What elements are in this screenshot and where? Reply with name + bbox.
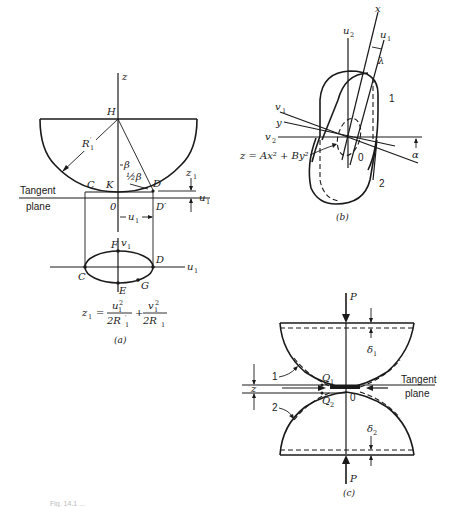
panel-b: u 2 x u 1 λ v 2 v 1 y α bbox=[239, 3, 422, 222]
svg-text:2: 2 bbox=[119, 299, 123, 307]
radius-label: R ′ 1 bbox=[80, 136, 96, 152]
svg-text:1: 1 bbox=[90, 144, 94, 152]
svg-text:2: 2 bbox=[155, 299, 159, 307]
figure-caption: Fig. 14.1 ... bbox=[50, 500, 85, 507]
point-O: 0 bbox=[110, 201, 117, 212]
svg-text:1: 1 bbox=[330, 378, 334, 386]
svg-text:u: u bbox=[187, 261, 193, 272]
body-2-label-c: 2 bbox=[272, 402, 278, 413]
svg-text:2: 2 bbox=[373, 429, 377, 437]
panel-c: P δ 1 Tangent plane 0 z Q bbox=[242, 291, 437, 498]
point-C: C bbox=[87, 179, 95, 190]
svg-text:=: = bbox=[96, 307, 104, 318]
gap-z-label: z bbox=[250, 383, 257, 394]
svg-text:v: v bbox=[265, 131, 271, 142]
svg-text:u: u bbox=[199, 192, 205, 203]
delta2-label: δ 2 bbox=[367, 423, 377, 437]
svg-text:1: 1 bbox=[127, 243, 131, 251]
tangent-plane-label-1: Tangent bbox=[20, 185, 56, 196]
v2-axis-label: v 2 bbox=[265, 131, 276, 145]
u1-axis-label-plan: u 1 bbox=[187, 261, 198, 275]
svg-text:2R: 2R bbox=[106, 315, 121, 326]
point-F: F bbox=[110, 239, 119, 250]
panel-c-caption: (c) bbox=[343, 488, 356, 498]
u1-axis-label-b: u 1 bbox=[380, 29, 391, 43]
point-D-prime: D′ bbox=[155, 201, 167, 212]
svg-text:v: v bbox=[275, 101, 281, 112]
svg-text:2R: 2R bbox=[142, 315, 157, 326]
force-bottom-label: P bbox=[349, 473, 357, 484]
z-axis-label: z bbox=[121, 71, 128, 82]
point-C-plan: C bbox=[78, 271, 86, 282]
point-E: E bbox=[118, 285, 127, 296]
tangent-plane-c-label-1: Tangent bbox=[401, 374, 437, 385]
lower-body-arc bbox=[280, 392, 414, 455]
body-2-outline bbox=[309, 138, 376, 204]
angle-beta: β bbox=[123, 159, 130, 170]
curvature-equation: z 1 = u 1 2 2R ′ 1 + v 1 2 2R 1 bbox=[81, 299, 167, 329]
angle-half-beta: ½β bbox=[126, 171, 142, 182]
point-G: G bbox=[141, 280, 149, 291]
panel-b-caption: (b) bbox=[336, 212, 349, 222]
point-D-plan: D bbox=[155, 254, 164, 265]
body-1-label-c: 1 bbox=[272, 371, 278, 382]
svg-text:2: 2 bbox=[350, 31, 354, 39]
svg-text:1: 1 bbox=[125, 321, 129, 329]
panel-a-caption: (a) bbox=[114, 335, 127, 345]
v1-axis-label-b: v 1 bbox=[275, 101, 286, 115]
tangent-plane-c-label-2: plane bbox=[405, 388, 430, 399]
contact-stress-figure: z H R ′ 1 β ½β C K D Tangent plane 0 D′ bbox=[0, 0, 450, 507]
x-axis-label: x bbox=[375, 3, 381, 14]
u2-axis-label: u 2 bbox=[343, 25, 354, 39]
origin-b: 0 bbox=[358, 152, 364, 163]
upper-body-arc bbox=[280, 323, 414, 388]
body-2-label: 2 bbox=[379, 178, 385, 189]
point-H: H bbox=[106, 106, 116, 117]
force-top-label: P bbox=[349, 291, 357, 302]
point-K: K bbox=[105, 179, 114, 190]
angle-alpha: α bbox=[412, 149, 419, 160]
contact-patch bbox=[330, 385, 360, 389]
svg-text:u: u bbox=[343, 25, 349, 36]
svg-text:z: z bbox=[81, 307, 88, 318]
panel-a: z H R ′ 1 β ½β C K D Tangent plane 0 D′ bbox=[19, 71, 210, 345]
svg-text:1: 1 bbox=[282, 107, 286, 115]
svg-text:1: 1 bbox=[193, 173, 197, 181]
svg-text:2: 2 bbox=[330, 401, 334, 409]
svg-text:1: 1 bbox=[387, 35, 391, 43]
angle-lambda: λ bbox=[377, 55, 384, 66]
svg-text:u: u bbox=[380, 29, 386, 40]
point-D: D bbox=[152, 178, 161, 189]
svg-text:1: 1 bbox=[206, 198, 210, 206]
svg-text:Q: Q bbox=[322, 372, 330, 383]
svg-text:1: 1 bbox=[161, 321, 165, 329]
svg-text:1: 1 bbox=[88, 313, 92, 321]
svg-text:1: 1 bbox=[373, 350, 377, 358]
surface-equation: z = Ax² + By² bbox=[239, 150, 309, 161]
v1-axis-label: v 1 bbox=[121, 237, 131, 251]
y-axis-label: y bbox=[275, 117, 282, 128]
svg-text:R: R bbox=[81, 138, 90, 149]
svg-text:u: u bbox=[128, 211, 134, 222]
tangent-plane-label-2: plane bbox=[26, 201, 51, 212]
u1-dimension-label: u 1 bbox=[128, 211, 139, 225]
svg-text:1: 1 bbox=[135, 217, 139, 225]
svg-text:z: z bbox=[185, 167, 192, 178]
delta1-label: δ 1 bbox=[367, 344, 377, 358]
body-1-label: 1 bbox=[389, 93, 395, 104]
svg-text:1: 1 bbox=[194, 267, 198, 275]
svg-text:2: 2 bbox=[272, 137, 276, 145]
u1-axis-label-top: u 1 bbox=[199, 192, 210, 206]
